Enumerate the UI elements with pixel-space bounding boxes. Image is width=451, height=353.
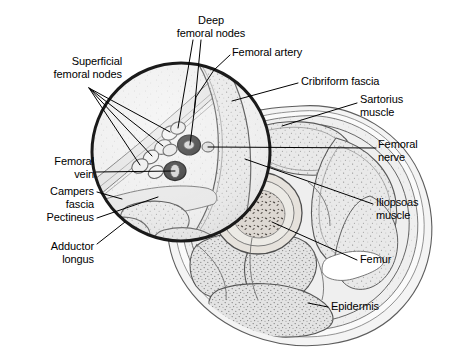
label-campers-fascia: Campersfascia [14,185,94,210]
leader-line-adductor-longus [97,222,125,244]
label-femoral-vein: Femoralvein [18,155,94,180]
label-femoral-nerve: Femoralnerve [378,138,444,163]
label-iliopsoas-muscle: Iliopsoasmuscle [376,196,446,221]
label-femur: Femur [360,253,410,266]
label-sartorius-muscle: Sartoriusmuscle [360,93,430,118]
label-deep-femoral-nodes: Deepfemoral nodes [163,14,259,39]
label-pectineus: Pectineus [20,211,94,224]
anatomical-figure: Deepfemoral nodesFemoral arterySuperfici… [0,0,451,353]
label-cribriform-fascia: Cribriform fascia [301,75,401,88]
label-femoral-artery: Femoral artery [232,46,322,59]
label-adductor-longus: Adductorlongus [20,240,94,265]
label-superficial-femoral-nodes: Superficialfemoral nodes [26,55,122,80]
label-epidermis: Epidermis [331,300,401,313]
